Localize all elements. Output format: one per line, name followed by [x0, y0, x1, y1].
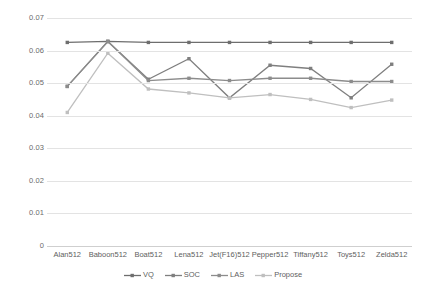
data-point-marker [187, 57, 190, 60]
data-point-marker [309, 98, 312, 101]
y-axis-tick-label: 0.04 [2, 112, 44, 120]
y-axis-tick-label: 0.03 [2, 144, 44, 152]
y-axis-tick-label: 0 [2, 242, 44, 250]
data-point-marker [106, 51, 109, 54]
plot-area [47, 18, 412, 246]
data-point-marker [106, 40, 109, 43]
legend-label: Propose [274, 271, 302, 279]
x-axis-tick-label: Lena512 [174, 250, 203, 260]
data-point-marker [147, 79, 150, 82]
data-point-marker [349, 106, 352, 109]
data-point-marker [390, 41, 393, 44]
y-axis-tick-label: 0.06 [2, 47, 44, 55]
data-point-marker [66, 85, 69, 88]
data-point-marker [66, 41, 69, 44]
chart-container: 00.010.020.030.040.050.060.07 Alan512Bab… [0, 0, 426, 299]
legend-marker-icon [255, 272, 272, 279]
data-point-marker [268, 64, 271, 67]
gridline [47, 116, 412, 117]
data-point-marker [309, 41, 312, 44]
legend-label: VQ [143, 271, 154, 279]
gridline [47, 83, 412, 84]
data-point-marker [187, 77, 190, 80]
y-axis: 00.010.020.030.040.050.060.07 [0, 18, 44, 246]
x-axis-tick-label: Boat512 [134, 250, 162, 260]
legend-item-las[interactable]: LAS [211, 271, 244, 279]
x-axis-tick-label: Zelda512 [376, 250, 407, 260]
data-point-marker [268, 41, 271, 44]
legend-item-propose[interactable]: Propose [255, 271, 302, 279]
x-axis-tick-label: Tiffany512 [293, 250, 328, 260]
legend-marker-icon [211, 272, 228, 279]
data-point-marker [147, 87, 150, 90]
x-axis-tick-label: Pepper512 [252, 250, 289, 260]
x-axis-tick-label: Toys512 [337, 250, 365, 260]
gridline [47, 51, 412, 52]
data-point-marker [349, 41, 352, 44]
x-axis-labels: Alan512Baboon512Boat512Lena512Jet(F16)51… [47, 250, 412, 264]
data-point-marker [268, 93, 271, 96]
y-axis-tick-label: 0.05 [2, 79, 44, 87]
data-point-marker [268, 77, 271, 80]
x-axis-tick-label: Alan512 [54, 250, 82, 260]
y-axis-tick-label: 0.07 [2, 14, 44, 22]
data-point-marker [147, 41, 150, 44]
legend-label: LAS [230, 271, 244, 279]
x-axis-tick-label: Jet(F16)512 [209, 250, 249, 260]
x-axis-line [47, 246, 412, 247]
data-point-marker [228, 79, 231, 82]
data-point-marker [187, 91, 190, 94]
chart-legend: VQSOCLASPropose [0, 271, 426, 279]
series-lines [47, 18, 412, 246]
data-point-marker [228, 41, 231, 44]
legend-marker-icon [165, 272, 182, 279]
data-point-marker [187, 41, 190, 44]
x-axis-tick-label: Baboon512 [89, 250, 127, 260]
legend-item-vq[interactable]: VQ [124, 271, 154, 279]
legend-item-soc[interactable]: SOC [165, 271, 200, 279]
data-point-marker [390, 63, 393, 66]
gridline [47, 213, 412, 214]
data-point-marker [66, 111, 69, 114]
y-axis-tick-label: 0.02 [2, 177, 44, 185]
data-point-marker [390, 98, 393, 101]
data-point-marker [309, 77, 312, 80]
legend-label: SOC [184, 271, 200, 279]
data-point-marker [349, 96, 352, 99]
legend-marker-icon [124, 272, 141, 279]
gridline [47, 181, 412, 182]
gridline [47, 18, 412, 19]
data-point-marker [228, 96, 231, 99]
data-point-marker [309, 67, 312, 70]
y-axis-tick-label: 0.01 [2, 209, 44, 217]
gridline [47, 148, 412, 149]
